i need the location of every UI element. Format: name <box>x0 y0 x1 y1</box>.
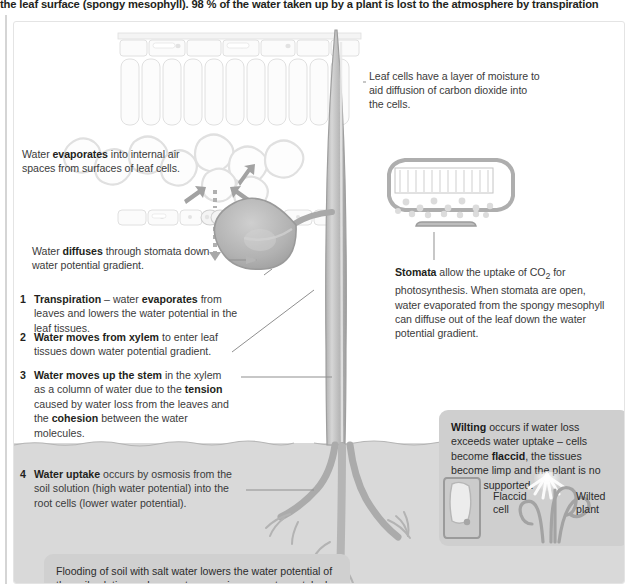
annotation-leaf-cells: Leaf cells have a layer of moisture to a… <box>369 69 544 112</box>
annotation-evaporation: Water evaporates into internal air space… <box>22 147 212 175</box>
diffusion-keyword: diffuses <box>63 245 103 257</box>
page-spine-rule <box>5 15 7 584</box>
figure-page: the leaf surface (spongy mesophyll). 98 … <box>0 0 628 584</box>
step-1-keyword: evaporates <box>142 293 198 305</box>
step-2-lead: Water moves from xylem <box>34 331 159 343</box>
flooding-text: Flooding of soil with salt water lowers … <box>56 565 336 584</box>
callout-wilting: Wilting occurs if water loss exceeds wat… <box>439 410 625 546</box>
wilting-keyword: Wilting <box>451 421 486 433</box>
annotation-stomata: Stomata allow the uptake of CO2 for phot… <box>395 265 605 340</box>
step-4-water-uptake: 4Water uptake occurs by osmosis from the… <box>20 467 235 510</box>
step-3-keyword-tension: tension <box>185 383 223 395</box>
step-3-keyword-cohesion: cohesion <box>52 412 99 424</box>
label-leader-lines <box>229 82 366 490</box>
step-2-water-from-xylem: 2Water moves from xylem to enter leaf ti… <box>20 330 230 359</box>
stomata-keyword: Stomata <box>395 266 436 278</box>
diffusion-pointer-arrow <box>246 256 258 264</box>
step-1-transpiration: 1Transpiration – water evaporates from l… <box>20 292 252 335</box>
step-2-number: 2 <box>20 330 26 344</box>
wilting-illustrations: Flaccid cell Wilted plant <box>439 472 625 546</box>
diffusion-pre: Water <box>32 245 63 257</box>
step-3-water-up-stem: 3Water moves up the stem in the xylem as… <box>20 368 235 440</box>
evaporation-keyword: evaporates <box>53 148 108 160</box>
stomata-text-a: allow the uptake of CO <box>436 266 545 278</box>
step-1-lead: Transpiration <box>34 293 101 305</box>
step-3-lead: Water moves up the stem <box>34 369 162 381</box>
step-4-number: 4 <box>20 467 26 481</box>
step-1-mid-a: – water <box>101 293 142 305</box>
step-4-lead: Water uptake <box>34 468 100 480</box>
step-3-number: 3 <box>20 368 26 382</box>
annotation-diffusion: Water diffuses through stomata down wate… <box>32 244 237 272</box>
evaporation-pre: Water <box>22 148 53 160</box>
step-1-number: 1 <box>20 292 26 306</box>
leaf-cross-section-top <box>118 33 361 125</box>
flaccid-keyword: flaccid <box>492 450 526 462</box>
callout-flooding: Flooding of soil with salt water lowers … <box>44 554 350 584</box>
page-running-header: the leaf surface (spongy mesophyll). 98 … <box>0 0 628 11</box>
stoma-leaf-detail <box>389 160 513 260</box>
label-wilted-plant: Wilted plant <box>576 490 624 516</box>
transpiration-figure-panel: Water evaporates into internal air space… <box>13 21 625 584</box>
flaccid-cell-icon <box>444 478 480 538</box>
lower-epidermis-row <box>118 210 338 225</box>
label-flaccid-cell: Flaccid cell <box>493 490 541 516</box>
